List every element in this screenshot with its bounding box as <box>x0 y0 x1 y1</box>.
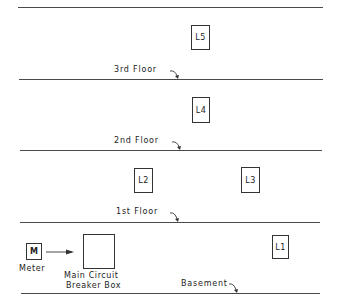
light-L5: L5 <box>191 25 210 50</box>
breaker-box-label-line1: Main Circuit <box>64 271 119 281</box>
light-L1: L1 <box>272 235 289 259</box>
light-L3: L3 <box>241 167 260 193</box>
leader-arrows <box>0 0 339 308</box>
first-floor-leader-icon <box>170 213 177 219</box>
meter-box: M <box>26 243 42 260</box>
third-floor-leader-icon <box>170 71 177 76</box>
light-L2: L2 <box>134 168 153 193</box>
light-L4: L4 <box>192 97 210 123</box>
second-floor-leader-icon <box>172 142 179 147</box>
basement-leader-icon <box>229 284 236 290</box>
arrow-head-icon <box>66 250 74 255</box>
main-circuit-breaker-box <box>83 234 115 269</box>
breaker-box-label-line2: Breaker Box <box>66 281 121 291</box>
meter-label: Meter <box>19 264 45 274</box>
